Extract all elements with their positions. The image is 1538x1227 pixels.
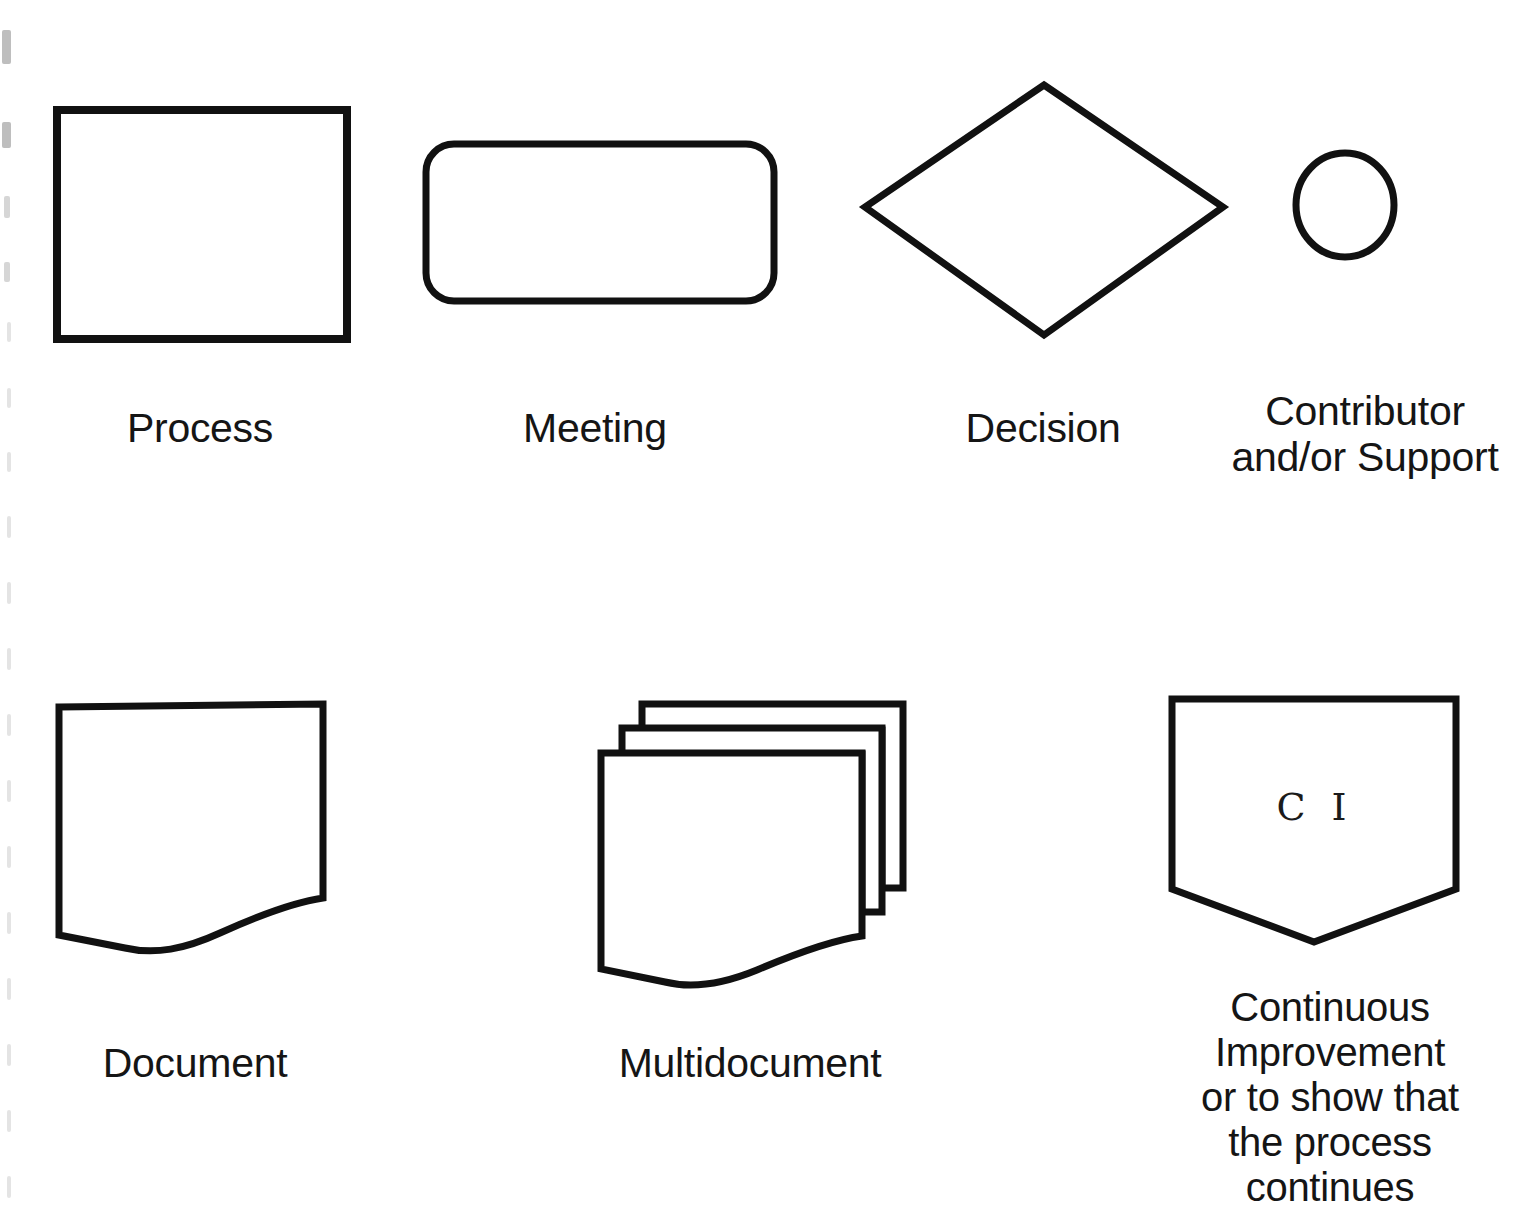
- scan-artifact-strip: [0, 0, 26, 1227]
- caption-document: Document: [55, 1040, 335, 1086]
- caption-meeting: Meeting: [455, 405, 735, 451]
- document-icon: [45, 693, 345, 968]
- meeting-rounded-rectangle-icon: [412, 130, 792, 320]
- symbol-contributor: [1280, 140, 1410, 270]
- contributor-circle-icon: [1280, 140, 1410, 270]
- symbol-process: [45, 98, 365, 358]
- symbol-meeting: [412, 130, 792, 320]
- symbol-decision: [855, 75, 1233, 345]
- caption-decision: Decision: [923, 405, 1163, 451]
- symbol-multidocument: [585, 688, 925, 993]
- caption-contributor: Contributor and/or Support: [1195, 388, 1535, 480]
- continuous-improvement-inner-label: C I: [1155, 785, 1475, 829]
- caption-process: Process: [60, 405, 340, 451]
- process-rectangle-icon: [45, 98, 365, 358]
- flowchart-legend-page: Process Meeting Decision Contributor and…: [0, 0, 1538, 1227]
- multidocument-icon: [585, 688, 925, 993]
- decision-diamond-icon: [855, 75, 1233, 345]
- symbol-document: [45, 693, 345, 968]
- caption-multidocument: Multidocument: [600, 1040, 900, 1086]
- caption-continuous-improvement: Continuous Improvement or to show that t…: [1180, 985, 1480, 1210]
